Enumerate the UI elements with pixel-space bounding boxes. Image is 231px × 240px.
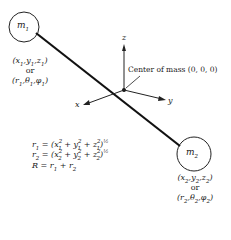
mass1-or: or	[4, 66, 56, 75]
equation-R: R = r1 + r2	[32, 161, 76, 170]
mass2-or: or	[168, 183, 222, 192]
x-arrowhead	[83, 100, 90, 105]
z-arrowhead	[122, 44, 126, 51]
mass2-cartesian: (x2,y2,z2)	[168, 173, 222, 182]
center-leader-line	[126, 76, 140, 88]
mass2-label: m2	[186, 148, 198, 157]
y-arrowhead	[158, 96, 166, 101]
x-axis-label: x	[75, 100, 80, 109]
mass1-label: m1	[17, 21, 29, 30]
z-axis-label: z	[122, 33, 126, 42]
center-of-mass-label: Center of mass (0, 0, 0)	[128, 65, 217, 74]
equation-r2: r2 = (x22 + y22 + z22)½	[32, 150, 109, 159]
connecting-rod	[36, 33, 180, 146]
mass2-spherical: (r2,θ2,φ2)	[168, 193, 222, 202]
y-axis	[124, 90, 162, 99]
y-axis-label: y	[168, 96, 173, 105]
mass1-spherical: (r1,θ1,φ1)	[4, 76, 56, 85]
mass1-cartesian: (x1,y1,z1)	[4, 56, 56, 65]
